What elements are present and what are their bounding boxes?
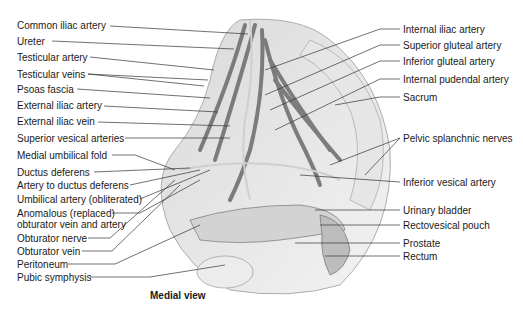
label-ureter: Ureter	[17, 36, 45, 47]
label-rectovesical-pouch: Rectovesical pouch	[403, 220, 490, 231]
label-obturator-vein: Obturator vein	[17, 246, 80, 257]
label-testicular-artery: Testicular artery	[17, 52, 88, 63]
figure-caption: Medial view	[150, 290, 206, 301]
label-prostate: Prostate	[403, 238, 440, 249]
label-peritoneum: Peritoneum	[17, 259, 68, 270]
label-external-iliac-vein: External iliac vein	[17, 116, 95, 127]
label-artery-to-ductus-deferens: Artery to ductus deferens	[17, 180, 129, 191]
label-external-iliac-artery: External iliac artery	[17, 100, 102, 111]
label-umbilical-artery: Umbilical artery (obliterated)	[17, 194, 142, 205]
label-obturator-vein-and-artery: obturator vein and artery	[17, 219, 126, 230]
label-obturator-nerve: Obturator nerve	[17, 233, 87, 244]
label-pelvic-splanchnic-nerves: Pelvic splanchnic nerves	[403, 133, 513, 144]
label-rectum: Rectum	[403, 251, 437, 262]
label-ductus-deferens: Ductus deferens	[17, 167, 90, 178]
label-internal-pudendal-artery: Internal pudendal artery	[403, 74, 509, 85]
label-internal-iliac-artery: Internal iliac artery	[403, 24, 485, 35]
label-inferior-vesical-artery: Inferior vesical artery	[403, 177, 496, 188]
label-anomalous-replaced: Anomalous (replaced)	[17, 208, 115, 219]
label-sacrum: Sacrum	[403, 92, 437, 103]
label-testicular-veins: Testicular veins	[17, 69, 85, 80]
label-inferior-gluteal-artery: Inferior gluteal artery	[403, 56, 495, 67]
label-psoas-fascia: Psoas fascia	[17, 84, 74, 95]
label-superior-gluteal-artery: Superior gluteal artery	[403, 40, 501, 51]
label-common-iliac-artery: Common iliac artery	[17, 20, 106, 31]
label-superior-vesical-arteries: Superior vesical arteries	[17, 133, 124, 144]
label-pubic-symphysis: Pubic symphysis	[17, 272, 91, 283]
label-urinary-bladder: Urinary bladder	[403, 205, 471, 216]
label-medial-umbilical-fold: Medial umbilical fold	[17, 150, 107, 161]
